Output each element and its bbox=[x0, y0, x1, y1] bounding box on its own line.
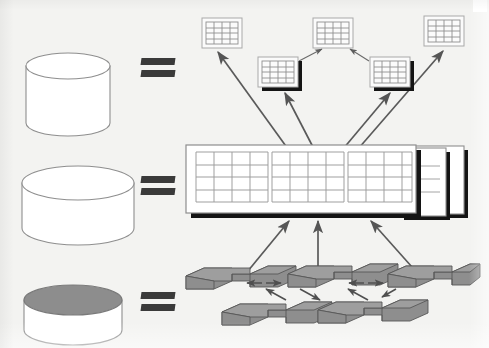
table-icon-1 bbox=[202, 18, 242, 48]
storage-block-group-5 bbox=[318, 300, 428, 323]
table-icon-3 bbox=[313, 18, 353, 48]
arrow-blocks-2-5b bbox=[382, 289, 396, 297]
equals-sign-top bbox=[141, 58, 175, 80]
page-corner-mark bbox=[473, 0, 487, 12]
table-icon-5 bbox=[424, 16, 464, 46]
storage-block-group-4 bbox=[222, 302, 332, 325]
arrow-table-4-to-3 bbox=[350, 49, 369, 61]
database-cylinder-top bbox=[26, 53, 110, 136]
arrow-blocks-2-4 bbox=[300, 289, 320, 300]
arrow-group-table-to-table bbox=[299, 49, 369, 61]
equals-sign-bottom bbox=[141, 292, 175, 314]
diagram-svg bbox=[0, 0, 489, 348]
stacked-table-panel bbox=[186, 145, 468, 220]
equals-sign-middle bbox=[141, 176, 175, 198]
table-icon-4 bbox=[370, 57, 414, 91]
arrow-table-2-to-3 bbox=[299, 49, 322, 61]
database-cylinder-bottom bbox=[24, 285, 122, 345]
arrow-panel-to-table-2 bbox=[285, 93, 314, 149]
arrow-blocks-2-5 bbox=[348, 289, 368, 300]
storage-block-group-1 bbox=[186, 266, 296, 289]
storage-block-group-3 bbox=[388, 264, 480, 287]
diagram-canvas bbox=[0, 0, 489, 348]
arrow-blocks-1-4 bbox=[266, 289, 286, 300]
table-icon-2 bbox=[258, 57, 302, 91]
database-cylinder-middle bbox=[22, 166, 134, 245]
